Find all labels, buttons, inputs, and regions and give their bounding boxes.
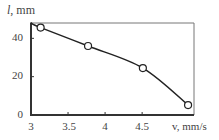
- x-axis-title: v, mm/s: [172, 121, 207, 132]
- plot-area: [0, 0, 219, 140]
- data-point-marker: [185, 102, 192, 109]
- data-point-marker: [139, 65, 146, 72]
- y-tick-label-40: 40: [5, 32, 23, 43]
- data-point-marker: [37, 24, 44, 31]
- data-line: [31, 23, 188, 105]
- line-chart: l, mm 40 20 0 3 3.5 4 4.5 v, mm/s: [0, 0, 219, 140]
- y-tick-label-0: 0: [5, 109, 23, 120]
- x-tick-label-3.5: 3.5: [57, 121, 81, 132]
- y-axis-unit: , mm: [10, 3, 35, 17]
- x-tick-label-4.5: 4.5: [130, 121, 154, 132]
- x-tick-label-4: 4: [93, 121, 117, 132]
- y-axis-title: l, mm: [7, 4, 35, 16]
- x-tick-label-3: 3: [19, 121, 43, 132]
- y-tick-label-20: 20: [5, 70, 23, 81]
- data-point-marker: [85, 43, 92, 50]
